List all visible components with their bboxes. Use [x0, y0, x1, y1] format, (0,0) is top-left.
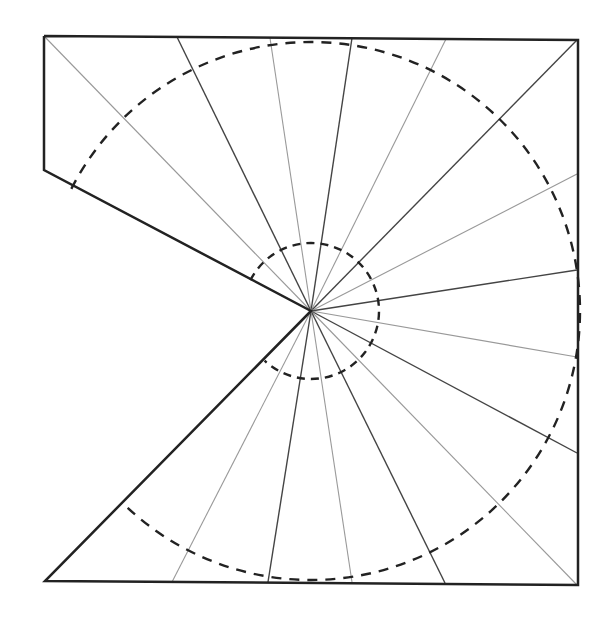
- crease-ray-5: [311, 40, 577, 311]
- crease-pattern-diagram: [0, 0, 606, 625]
- crease-ray-13: [268, 311, 311, 582]
- crease-ray-9: [311, 311, 577, 453]
- crease-ray-0: [44, 36, 311, 311]
- crease-ray-10: [311, 311, 577, 585]
- dashed-circles: [71, 42, 580, 580]
- outer-dashed-circle: [71, 42, 580, 580]
- crease-ray-8: [311, 311, 577, 357]
